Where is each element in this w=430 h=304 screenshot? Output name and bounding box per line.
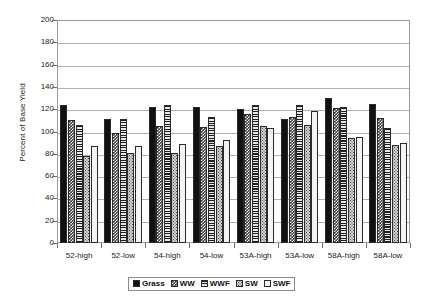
bar-sw-58a-low — [392, 145, 399, 243]
legend-label: WW — [180, 280, 195, 288]
legend-label: SW — [245, 280, 258, 288]
bar-group-52-high — [57, 20, 101, 243]
x-axis-tick-mark — [278, 243, 279, 248]
x-axis-tick-mark — [57, 243, 58, 248]
x-axis-tick-mark — [366, 243, 367, 248]
bar-group-53a-low — [278, 20, 322, 243]
y-axis-tick-label: 140 — [14, 83, 54, 91]
bar-ww-52-high — [68, 120, 75, 243]
bar-group-52-low — [101, 20, 145, 243]
x-axis-tick-mark — [145, 243, 146, 248]
bar-wwf-52-high — [76, 125, 83, 243]
bar-grass-54-low — [193, 107, 200, 243]
bar-sw-53a-low — [304, 125, 311, 243]
bar-grass-52-high — [60, 105, 67, 243]
legend-swatch-grass-icon — [133, 280, 140, 287]
x-axis-tick-mark — [322, 243, 323, 248]
legend-item-wwf: WWF — [201, 280, 230, 288]
bar-sw-52-low — [127, 153, 134, 243]
x-axis-tick-label-53a-low: 53A-low — [278, 251, 322, 260]
y-axis-tick-label: 160 — [14, 61, 54, 69]
bar-group-58a-high — [322, 20, 366, 243]
bar-swf-58a-low — [400, 143, 407, 243]
y-axis-tick-label: 40 — [14, 194, 54, 202]
bar-group-53a-high — [234, 20, 278, 243]
x-axis-tick-label-52-low: 52-low — [101, 251, 145, 260]
legend-label: WWF — [210, 280, 230, 288]
x-axis-tick-label-58a-high: 58A-high — [322, 251, 366, 260]
bar-wwf-52-low — [120, 119, 127, 243]
bar-swf-54-low — [223, 140, 230, 243]
y-axis-tick-label: 80 — [14, 150, 54, 158]
bar-ww-52-low — [112, 133, 119, 243]
bar-swf-54-high — [179, 144, 186, 243]
bar-sw-53a-high — [260, 126, 267, 243]
bar-sw-54-low — [216, 146, 223, 243]
bar-grass-52-low — [104, 119, 111, 243]
y-axis-tick-label: 60 — [14, 172, 54, 180]
bar-grass-54-high — [149, 107, 156, 243]
bar-ww-58a-low — [377, 118, 384, 243]
legend-swatch-swf-icon — [264, 280, 271, 287]
bar-ww-58a-high — [333, 108, 340, 243]
bar-group-54-low — [189, 20, 233, 243]
bar-swf-52-low — [135, 146, 142, 243]
x-axis-tick-label-54-low: 54-low — [189, 251, 233, 260]
bar-group-54-high — [145, 20, 189, 243]
bar-grass-58a-low — [369, 104, 376, 243]
bar-group-58a-low — [366, 20, 410, 243]
bar-grass-53a-high — [237, 109, 244, 243]
bar-grass-53a-low — [281, 119, 288, 243]
legend-item-grass: Grass — [133, 280, 165, 288]
bar-swf-58a-high — [356, 137, 363, 243]
chart-legend: GrassWWWWFSWSWF — [128, 277, 295, 291]
legend-label: Grass — [142, 280, 165, 288]
bar-swf-53a-low — [311, 111, 318, 243]
bar-sw-54-high — [171, 153, 178, 243]
y-axis-tick-label: 0 — [14, 239, 54, 247]
bar-swf-53a-high — [267, 128, 274, 243]
bar-swf-52-high — [91, 146, 98, 243]
x-axis-tick-mark — [101, 243, 102, 248]
legend-swatch-ww-icon — [171, 280, 178, 287]
x-axis-tick-label-58a-low: 58A-low — [366, 251, 410, 260]
y-axis-tick-label: 20 — [14, 217, 54, 225]
y-axis-tick-label: 200 — [14, 16, 54, 24]
legend-item-ww: WW — [171, 280, 195, 288]
bar-ww-53a-low — [289, 117, 296, 243]
y-axis-tick-label: 180 — [14, 38, 54, 46]
x-axis-tick-mark — [410, 243, 411, 248]
bar-wwf-54-high — [164, 105, 171, 243]
y-axis-tick-label: 120 — [14, 105, 54, 113]
bars-layer — [57, 20, 410, 243]
x-axis-tick-label-53a-high: 53A-high — [234, 251, 278, 260]
bar-sw-58a-high — [348, 138, 355, 243]
legend-item-sw: SW — [236, 280, 258, 288]
legend-item-swf: SWF — [264, 280, 291, 288]
x-axis-tick-mark — [234, 243, 235, 248]
bar-ww-54-low — [200, 127, 207, 243]
bar-wwf-53a-low — [296, 105, 303, 243]
bar-chart: Percent of Base Yield 200180160140120100… — [0, 0, 430, 304]
bar-ww-53a-high — [244, 114, 251, 243]
legend-swatch-sw-icon — [236, 280, 243, 287]
bar-wwf-54-low — [208, 117, 215, 243]
bar-wwf-53a-high — [252, 105, 259, 243]
bar-ww-54-high — [156, 126, 163, 243]
bar-grass-58a-high — [325, 98, 332, 243]
x-axis-tick-label-52-high: 52-high — [57, 251, 101, 260]
bar-wwf-58a-high — [340, 107, 347, 243]
x-axis-tick-mark — [189, 243, 190, 248]
x-axis-tick-label-54-high: 54-high — [145, 251, 189, 260]
y-axis-tick-label: 100 — [14, 128, 54, 136]
bar-wwf-58a-low — [384, 128, 391, 243]
bar-sw-52-high — [83, 156, 90, 243]
legend-label: SWF — [273, 280, 291, 288]
legend-swatch-wwf-icon — [201, 280, 208, 287]
